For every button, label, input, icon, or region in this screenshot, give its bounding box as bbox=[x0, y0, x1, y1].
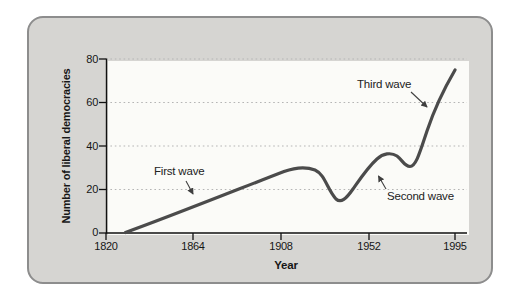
y-tick-label-0: 0 bbox=[68, 226, 98, 238]
annotation-first-wave: First wave bbox=[154, 165, 204, 177]
y-axis-title: Number of liberal democracies bbox=[60, 69, 72, 224]
y-tick-label-20: 20 bbox=[68, 183, 98, 195]
x-tick-label-1864: 1864 bbox=[171, 240, 215, 252]
annotation-third-wave: Third wave bbox=[357, 78, 411, 90]
x-tick-label-1952: 1952 bbox=[347, 240, 391, 252]
x-tick-label-1995: 1995 bbox=[433, 240, 477, 252]
y-tick-label-80: 80 bbox=[68, 53, 98, 65]
y-tick-label-60: 60 bbox=[68, 96, 98, 108]
plot-area bbox=[108, 61, 469, 235]
x-tick-label-1908: 1908 bbox=[259, 240, 303, 252]
y-tick-label-40: 40 bbox=[68, 140, 98, 152]
annotation-second-wave: Second wave bbox=[387, 190, 454, 202]
x-tick-label-1820: 1820 bbox=[84, 240, 128, 252]
x-axis-title: Year bbox=[256, 259, 316, 271]
